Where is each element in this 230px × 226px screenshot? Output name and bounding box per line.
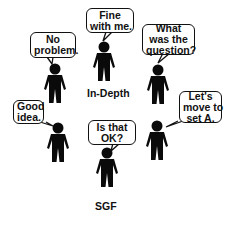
- speech-line: with me.: [90, 21, 130, 32]
- speech-bubble-mid-right: Let's move to set A.: [179, 91, 222, 123]
- speech-tail-top-left: [47, 57, 53, 64]
- speech-bubble-mid-left: Good idea.: [13, 100, 44, 124]
- group-label-in-depth: In-Depth: [87, 87, 130, 99]
- person-figure-mid-left: [47, 123, 69, 163]
- speech-line: problem.: [34, 45, 72, 56]
- speech-line: Let's: [183, 91, 218, 102]
- speech-tail-mid-left: [40, 122, 53, 126]
- speech-bubble-top-center: Fine with me.: [86, 8, 134, 33]
- speech-line: move to: [183, 102, 218, 113]
- speech-bubble-bottom-center: Is that OK?: [88, 120, 136, 145]
- speech-line: OK?: [92, 133, 132, 144]
- person-figure-bottom-center: [96, 148, 118, 188]
- person-figure-top-left: [44, 64, 66, 104]
- person-figure-top-center: [93, 42, 115, 82]
- speech-line: idea.: [17, 112, 40, 123]
- person-figure-top-right: [147, 65, 169, 105]
- speech-line: Is that: [92, 122, 132, 133]
- speech-bubble-top-right: What was the question?: [142, 24, 195, 55]
- speech-bubble-top-left: No problem.: [30, 32, 76, 58]
- group-label-sgf: SGF: [95, 200, 117, 212]
- speech-tail-top-center: [103, 32, 112, 41]
- speech-line: set A.: [183, 113, 218, 124]
- speech-line: question?: [146, 45, 191, 56]
- person-figure-mid-right: [146, 121, 168, 161]
- speech-line: Fine: [90, 10, 130, 21]
- speech-tail-mid-right: [166, 121, 183, 127]
